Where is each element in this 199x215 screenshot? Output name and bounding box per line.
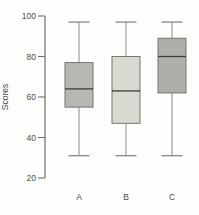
- category-label-C: C: [169, 192, 175, 202]
- box-A: [65, 63, 93, 108]
- box-C: [158, 38, 186, 93]
- boxplot-chart: 10080604020ScoresABC: [0, 0, 199, 215]
- y-tick-label-100: 100: [22, 11, 36, 21]
- y-tick-label-40: 40: [27, 133, 37, 143]
- y-tick-label-60: 60: [27, 92, 37, 102]
- box-B: [112, 57, 140, 124]
- y-tick-label-80: 80: [27, 52, 37, 62]
- y-tick-label-20: 20: [27, 173, 37, 183]
- y-axis-title: Scores: [0, 84, 10, 110]
- category-label-A: A: [76, 192, 82, 202]
- category-label-B: B: [123, 192, 129, 202]
- boxplot-figure: 10080604020ScoresABC: [0, 0, 199, 215]
